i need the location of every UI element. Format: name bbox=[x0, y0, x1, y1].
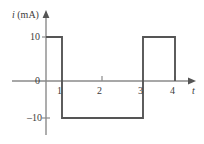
x-tick-label-4: 4 bbox=[170, 86, 175, 96]
x-tick-label-3: 3 bbox=[138, 86, 143, 96]
waveform-trace-group bbox=[46, 37, 175, 118]
y-tick-label-10: 10 bbox=[30, 32, 40, 42]
x-tick-label-2: 2 bbox=[97, 86, 102, 96]
waveform-trace bbox=[46, 37, 175, 118]
x-tick-label-1: 1 bbox=[57, 86, 62, 96]
y-axis-arrow-icon bbox=[43, 10, 50, 18]
y-axis-unit: (mA) bbox=[17, 9, 39, 20]
waveform-figure: i (mA) t 10 0 –10 1 2 3 4 bbox=[0, 0, 204, 144]
y-tick-label-0: 0 bbox=[35, 76, 40, 86]
y-axis-title: i (mA) bbox=[12, 10, 39, 20]
y-tick-label-neg10: –10 bbox=[27, 113, 42, 123]
x-axis-arrow-icon bbox=[188, 78, 196, 85]
x-axis-title: t bbox=[192, 86, 195, 96]
